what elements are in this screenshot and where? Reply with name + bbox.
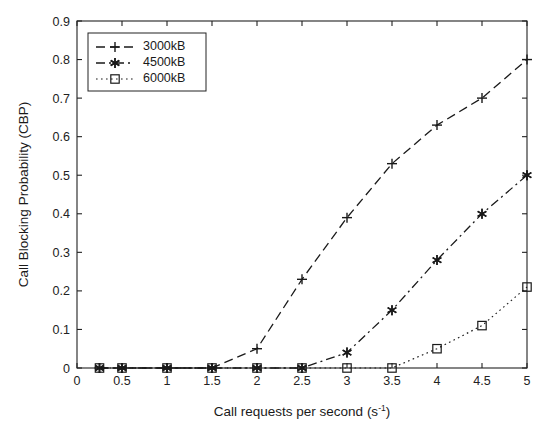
x-tick-label: 1 — [164, 374, 171, 388]
x-tick-label: 2 — [254, 374, 261, 388]
x-tick-label: 4.5 — [473, 374, 490, 388]
series-line-4500kB — [100, 175, 528, 368]
series-line-6000kB — [100, 287, 528, 368]
x-tick-label: 5 — [524, 374, 531, 388]
y-tick-label: 0.7 — [53, 92, 70, 106]
y-tick-label: 0.1 — [53, 323, 70, 337]
y-tick-label: 0 — [63, 362, 70, 376]
y-tick-label: 0.3 — [53, 246, 70, 260]
x-tick-label: 1.5 — [203, 374, 220, 388]
y-tick-label: 0.5 — [53, 169, 70, 183]
y-tick-label: 0.4 — [53, 207, 70, 221]
y-tick-label: 0.9 — [53, 15, 70, 29]
series-6000kB — [95, 283, 531, 372]
series-3000kB — [95, 55, 533, 373]
series-4500kB — [95, 170, 531, 373]
x-tick-label: 0.5 — [113, 374, 130, 388]
x-axis-label-base: Call requests per second (s — [214, 404, 379, 419]
x-tick-label: 3 — [344, 374, 351, 388]
chart-figure: 00.511.522.533.544.5500.10.20.30.40.50.6… — [0, 0, 552, 431]
chart-legend: 3000kB4500kB6000kB — [88, 33, 206, 91]
data-point-3000kB-5 — [297, 274, 307, 284]
y-tick-label: 0.6 — [53, 130, 70, 144]
data-series-layer — [95, 55, 533, 373]
legend-label-6000kB: 6000kB — [143, 71, 185, 85]
legend-label-4500kB: 4500kB — [143, 55, 185, 69]
x-tick-label: 3.5 — [383, 374, 400, 388]
data-point-3000kB-4 — [252, 344, 262, 354]
data-point-3000kB-8 — [432, 120, 442, 130]
x-tick-label: 0 — [74, 374, 81, 388]
chart-canvas: 00.511.522.533.544.5500.10.20.30.40.50.6… — [0, 0, 552, 431]
x-axis-label-tail: ) — [386, 404, 391, 419]
y-tick-label: 0.2 — [53, 284, 70, 298]
y-axis-label: Call Blocking Probability (CBP) — [16, 102, 31, 287]
series-line-3000kB — [100, 60, 528, 368]
y-tick-label: 0.8 — [53, 53, 70, 67]
x-tick-label: 4 — [434, 374, 441, 388]
x-tick-label: 2.5 — [293, 374, 310, 388]
data-point-3000kB-10 — [522, 55, 532, 65]
x-axis-label: Call requests per second (s-1) — [214, 403, 390, 419]
legend-label-3000kB: 3000kB — [143, 39, 185, 53]
